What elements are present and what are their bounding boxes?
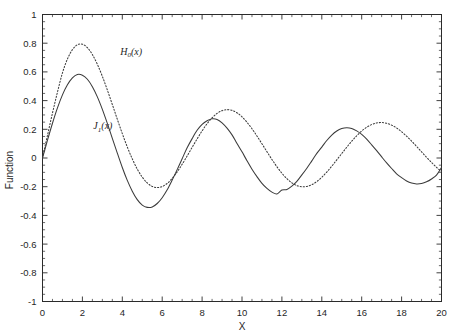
x-axis-title: X [239,321,246,332]
x-tick-label: 6 [160,307,165,318]
y-tick-label: -1 [28,296,36,307]
y-tick-label: -0.8 [20,267,36,278]
y-axis-title: Function [4,151,15,189]
y-tick-label: -0.2 [20,181,36,192]
y-axis-tick-labels: -1-0.8-0.6-0.4-0.200.20.40.60.81 [20,9,36,307]
x-tick-label: 0 [40,307,45,318]
y-tick-label: 0 [31,152,36,163]
y-tick-label: -0.4 [20,210,36,221]
x-tick-label: 4 [120,307,125,318]
y-tick-label: -0.6 [20,239,36,250]
x-tick-label: 12 [277,307,288,318]
y-tick-label: 1 [31,9,36,20]
y-tick-label: 0.4 [23,95,36,106]
x-tick-label: 8 [199,307,204,318]
x-tick-label: 18 [396,307,407,318]
y-tick-label: 0.2 [23,124,36,135]
y-axis-minor-ticks [43,22,442,295]
x-tick-label: 14 [317,307,328,318]
x-tick-label: 20 [436,307,447,318]
y-tick-label: 0.6 [23,66,36,77]
y-axis-major-ticks [43,15,442,302]
series-line-h0x [43,44,442,188]
x-axis-minor-ticks [52,15,431,302]
series-line-j1x [43,74,442,207]
x-axis-major-ticks [43,15,442,302]
y-tick-label: 0.8 [23,38,36,49]
plot-frame [43,15,442,302]
curve-label-h0x: H0(x) [119,46,143,59]
x-tick-label: 16 [356,307,367,318]
chart-plot-area: 02468101214161820 -1-0.8-0.6-0.4-0.200.2… [0,0,465,336]
chart-figure: 02468101214161820 -1-0.8-0.6-0.4-0.200.2… [0,0,465,336]
x-tick-label: 10 [237,307,248,318]
x-tick-label: 2 [80,307,85,318]
x-axis-tick-labels: 02468101214161820 [40,307,447,318]
